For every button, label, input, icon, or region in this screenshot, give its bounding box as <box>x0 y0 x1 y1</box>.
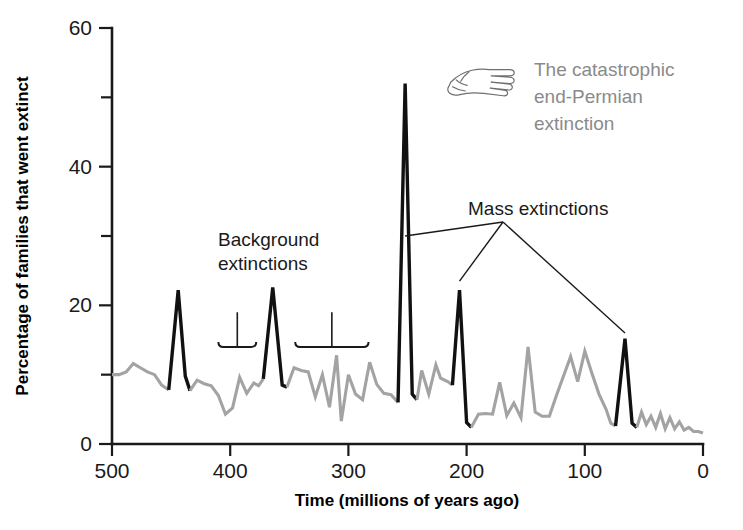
x-tick-label: 400 <box>213 459 248 482</box>
mass-extinction-peak <box>169 290 190 391</box>
mass-extinction-peak <box>398 83 417 402</box>
background-extinction-line <box>287 355 398 421</box>
background-extinction-line <box>112 364 169 390</box>
x-axis: 5004003002001000 Time (millions of years… <box>94 444 708 510</box>
background-extinction-line <box>471 347 615 427</box>
end-permian-callout-line3: extinction <box>534 113 614 134</box>
x-axis-title: Time (millions of years ago) <box>295 491 520 510</box>
annotation-mass-extinctions: Mass extinctions <box>405 198 625 333</box>
y-tick-label: 0 <box>80 432 92 455</box>
y-axis-ticks <box>99 28 112 444</box>
y-axis-title: Percentage of families that went extinct <box>13 76 32 396</box>
end-permian-callout-line1: The catastrophic <box>534 59 674 80</box>
mass-extinction-leader-line <box>405 222 503 236</box>
x-tick-label: 0 <box>697 459 709 482</box>
x-tick-label: 200 <box>449 459 484 482</box>
chart-canvas: 0204060 Percentage of families that went… <box>0 0 743 530</box>
background-extinctions-label-line1: Background <box>218 229 319 250</box>
background-extinction-line <box>190 377 263 414</box>
mass-extinction-leader-lines <box>405 222 625 333</box>
x-tick-label: 300 <box>331 459 366 482</box>
x-tick-label: 100 <box>567 459 602 482</box>
mass-extinction-peak <box>616 339 637 428</box>
y-tick-label: 20 <box>69 293 92 316</box>
x-axis-tick-labels: 5004003002001000 <box>94 459 708 482</box>
mass-extinction-leader-line <box>460 222 503 281</box>
background-extinction-line <box>417 365 452 400</box>
mass-extinction-peak <box>452 290 471 427</box>
x-axis-ticks <box>112 444 703 456</box>
background-extinction-brackets <box>218 312 368 347</box>
mass-extinction-leader-line <box>503 222 625 333</box>
y-tick-label: 60 <box>69 16 92 39</box>
x-tick-label: 500 <box>94 459 129 482</box>
pointing-hand-icon <box>448 69 514 96</box>
y-tick-label: 40 <box>69 155 92 178</box>
end-permian-callout-line2: end-Permian <box>534 86 643 107</box>
mass-extinctions-label: Mass extinctions <box>468 198 608 219</box>
mass-extinction-peak <box>263 287 287 387</box>
y-axis: 0204060 Percentage of families that went… <box>13 16 112 455</box>
background-extinctions-label-line2: extinctions <box>218 253 308 274</box>
annotation-end-permian-callout: The catastrophic end-Permian extinction <box>448 59 675 134</box>
extinction-chart-figure: 0204060 Percentage of families that went… <box>0 0 743 530</box>
y-axis-tick-labels: 0204060 <box>69 16 92 455</box>
data-series-layer <box>112 83 703 432</box>
background-extinction-line <box>637 412 703 433</box>
annotation-background-extinctions: Background extinctions <box>218 229 368 347</box>
